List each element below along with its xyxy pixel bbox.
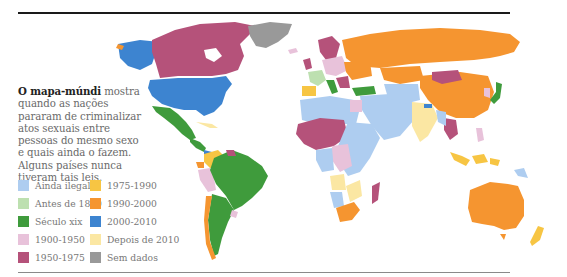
region-uk xyxy=(303,58,312,70)
swatch-1950-1975-icon xyxy=(18,252,29,263)
legend-item-no-data: Sem dados xyxy=(90,252,158,263)
legend-item-1900-1950: 1900-1950 xyxy=(18,234,85,245)
region-indonesia xyxy=(450,152,500,166)
legend-label: 1900-1950 xyxy=(35,234,85,245)
region-iceland xyxy=(288,48,298,54)
region-canada xyxy=(152,22,255,78)
swatch-no-data-icon xyxy=(90,252,101,263)
region-kazakhstan xyxy=(380,66,424,84)
map-caption: O mapa-múndi mostra quando as nações par… xyxy=(18,85,146,184)
region-mozambique xyxy=(346,180,362,202)
bottom-rule xyxy=(18,272,510,273)
swatch-still-illegal-icon xyxy=(18,180,29,191)
legend-label: 1975-1990 xyxy=(107,180,157,191)
legend-label: Século xix xyxy=(35,216,83,227)
legend-label: 2000-2010 xyxy=(107,216,157,227)
swatch-1975-1990-icon xyxy=(90,180,101,191)
region-scandinavia xyxy=(318,36,340,60)
legend-label: Ainda ilegal xyxy=(35,180,90,191)
region-namibia xyxy=(330,192,344,208)
swatch-1990-2000-icon xyxy=(90,198,101,209)
region-france xyxy=(308,70,326,86)
region-central-america xyxy=(190,138,206,152)
caption-title: O mapa-múndi xyxy=(18,85,101,97)
legend-item-1975-1990: 1975-1990 xyxy=(90,180,157,191)
region-nepal xyxy=(424,104,432,108)
legend-label: 1990-2000 xyxy=(107,198,157,209)
swatch-before-1800-icon xyxy=(18,198,29,209)
region-spain xyxy=(302,86,316,96)
legend-item-century-19: Século xix xyxy=(18,216,83,227)
caption-body: mostra quando as nações pararam de crimi… xyxy=(18,86,141,183)
region-madagascar xyxy=(372,182,380,204)
region-italy xyxy=(326,80,338,94)
region-tasmania xyxy=(500,234,506,240)
region-balkans xyxy=(336,76,350,88)
region-egypt xyxy=(350,100,362,112)
legend-item-after-2010: Depois de 2010 xyxy=(90,234,179,245)
legend-item-2000-2010: 2000-2010 xyxy=(90,216,157,227)
region-greenland xyxy=(248,22,292,48)
swatch-after-2010-icon xyxy=(90,234,101,245)
legend-label: Depois de 2010 xyxy=(107,234,179,245)
legend-label: 1950-1975 xyxy=(35,252,85,263)
swatch-century-19-icon xyxy=(18,216,29,227)
region-argentina xyxy=(208,194,234,256)
swatch-1900-1950-icon xyxy=(18,234,29,245)
legend-item-1990-2000: 1990-2000 xyxy=(90,198,157,209)
region-turkey xyxy=(352,86,376,96)
region-angola xyxy=(330,174,346,190)
region-ecuador xyxy=(196,162,204,168)
swatch-2000-2010-icon xyxy=(90,216,101,227)
region-myanmar xyxy=(436,110,446,126)
region-philippines xyxy=(476,128,484,142)
region-new-zealand xyxy=(530,226,544,246)
legend-label: Sem dados xyxy=(107,252,158,263)
legend-item-1950-1975: 1950-1975 xyxy=(18,252,85,263)
region-australia xyxy=(468,182,524,230)
region-caribbean xyxy=(196,122,218,128)
region-se-asia xyxy=(444,118,458,140)
region-mexico xyxy=(152,106,196,140)
legend-item-still-illegal: Ainda ilegal xyxy=(18,180,90,191)
region-png xyxy=(514,168,528,178)
region-west-coast xyxy=(316,148,334,172)
